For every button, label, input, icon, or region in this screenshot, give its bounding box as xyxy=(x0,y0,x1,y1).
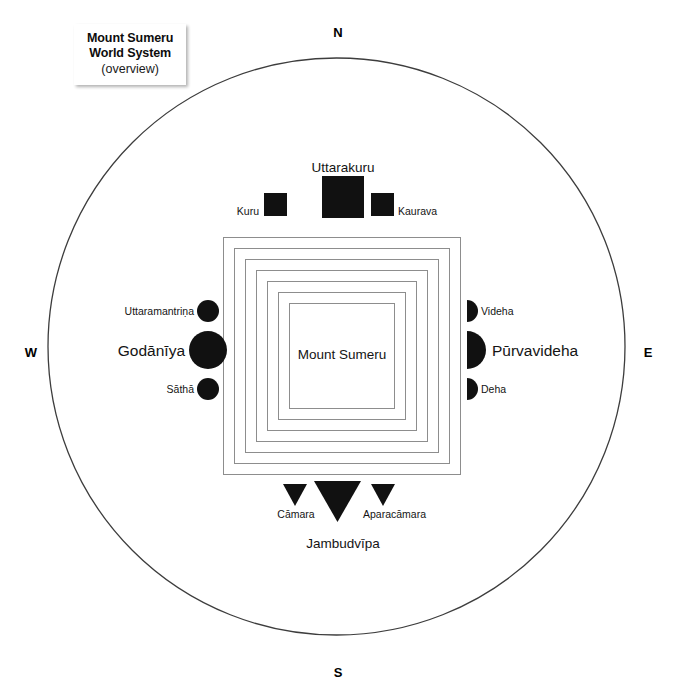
aparacamara-triangle xyxy=(371,484,395,506)
satha-circle xyxy=(197,378,219,400)
purvavideha-label: Pūrvavideha xyxy=(492,343,578,359)
north-continent-shapes xyxy=(264,176,394,218)
deha-label: Deha xyxy=(481,384,506,395)
cardinal-east: E xyxy=(644,346,653,359)
camara-label: Cāmara xyxy=(277,509,314,520)
mount-sumeru-label: Mount Sumeru xyxy=(298,348,387,362)
videha-semicircle xyxy=(467,300,478,322)
uttarakuru-label: Uttarakuru xyxy=(311,161,374,175)
kaurava-label: Kaurava xyxy=(398,206,437,217)
jambudvipa-label: Jambudvīpa xyxy=(306,537,380,551)
title-line-1: Mount Sumeru xyxy=(87,31,173,46)
title-subtitle: (overview) xyxy=(87,62,173,77)
cardinal-south: S xyxy=(334,666,343,679)
camara-triangle xyxy=(283,484,307,506)
title-card: Mount Sumeru World System (overview) xyxy=(74,24,186,85)
satha-label: Sāthā xyxy=(167,384,194,395)
aparacamara-label: Aparacāmara xyxy=(363,509,426,520)
title-line-2: World System xyxy=(87,46,173,61)
videha-label: Videha xyxy=(481,306,514,317)
cardinal-north: N xyxy=(333,26,342,39)
godaniya-circle xyxy=(189,331,227,369)
diagram-canvas: Mount Sumeru World System (overview) N S… xyxy=(0,0,677,695)
kuru-label: Kuru xyxy=(237,206,259,217)
cardinal-west: W xyxy=(25,346,37,359)
godaniya-label: Godānīya xyxy=(118,343,185,359)
uttaramantrina-circle xyxy=(197,300,219,322)
kuru-square xyxy=(264,193,287,216)
purvavideha-semicircle xyxy=(467,331,486,369)
deha-semicircle xyxy=(467,378,478,400)
jambudvipa-triangle xyxy=(314,481,361,522)
west-continent-shapes xyxy=(189,300,227,400)
uttarakuru-square xyxy=(322,176,364,218)
uttaramantrina-label: Uttaramantriṇa xyxy=(125,306,194,317)
kaurava-square xyxy=(371,193,394,216)
